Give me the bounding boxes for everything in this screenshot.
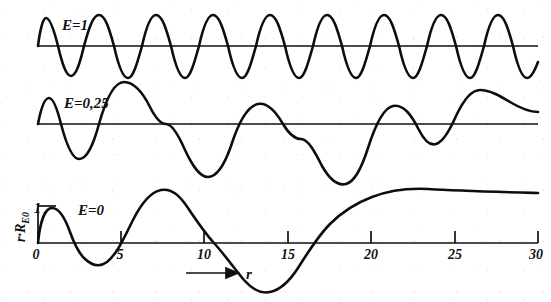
- panel-e1: E=1: [38, 15, 538, 78]
- x-tick-label-25: 25: [447, 247, 462, 262]
- y-axis-label: r·RE0: [13, 212, 31, 242]
- x-tick-label-15: 15: [281, 247, 295, 262]
- y-axis-label-main: r·R: [13, 224, 28, 242]
- x-ticks: [38, 231, 538, 243]
- panel-e1-label: E=1: [61, 17, 88, 33]
- x-tick-label-0: 0: [33, 247, 40, 262]
- y-tick-label-1: 1: [34, 201, 41, 216]
- x-axis-arrow-label: r: [246, 266, 252, 282]
- panel-e025-curve: [38, 82, 538, 184]
- y-axis-label-group: r·RE0: [13, 212, 31, 242]
- x-tick-label-10: 10: [197, 247, 211, 262]
- y-axis-label-subscript: E0: [20, 212, 31, 225]
- panel-e0-label: E=0: [77, 202, 105, 218]
- scientific-figure: E=1 E=0,25 1: [0, 0, 551, 302]
- x-tick-label-30: 30: [528, 247, 543, 262]
- panel-e0: 1 0 5 10 15 20 25 30: [13, 189, 543, 293]
- x-tick-label-20: 20: [363, 247, 378, 262]
- panel-e025-label: E=0,25: [63, 95, 109, 111]
- panel-e025: E=0,25: [38, 82, 538, 184]
- radial-wavefunction-plot: E=1 E=0,25 1: [0, 0, 551, 302]
